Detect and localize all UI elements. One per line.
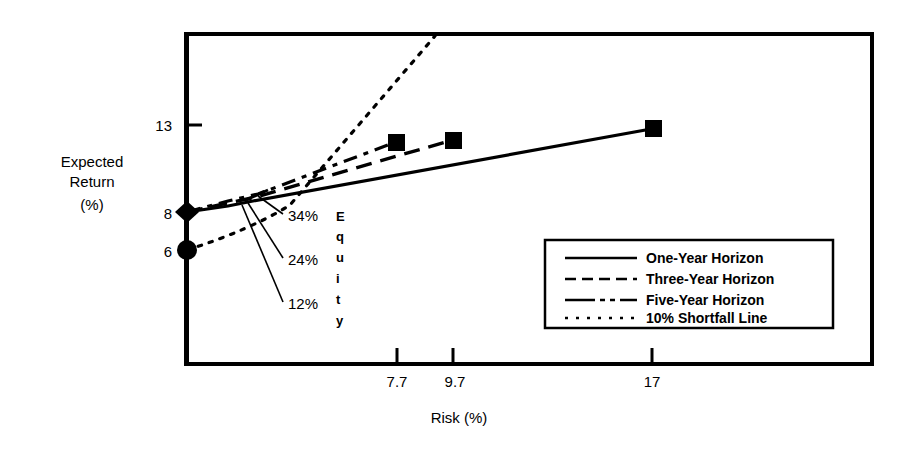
y-tick-label-8: 8 <box>164 205 172 222</box>
y-axis-title-line-2: Return <box>69 173 114 190</box>
equity-letter-y: y <box>336 313 344 328</box>
series-line-one-year <box>187 129 651 212</box>
chart-svg: 13 8 6 7.7 9.7 17 Risk (%) Expected Retu… <box>0 0 922 454</box>
x-tick-label-7-7: 7.7 <box>387 373 408 390</box>
chart-figure: 13 8 6 7.7 9.7 17 Risk (%) Expected Retu… <box>0 0 922 454</box>
legend-label-shortfall: 10% Shortfall Line <box>646 310 768 326</box>
y-tick-label-13: 13 <box>155 117 172 134</box>
y-axis-title-line-3: (%) <box>80 196 103 213</box>
annotation-label-34: 34% <box>288 207 318 224</box>
legend-label-five-year: Five-Year Horizon <box>646 292 764 308</box>
legend-label-three-year: Three-Year Horizon <box>646 271 774 287</box>
legend: One-Year Horizon Three-Year Horizon Five… <box>545 240 833 328</box>
annotation-label-12: 12% <box>288 295 318 312</box>
origin-diamond-marker <box>175 201 199 223</box>
annotation-label-24: 24% <box>288 251 318 268</box>
y-tick-label-6: 6 <box>164 243 172 260</box>
legend-label-one-year: One-Year Horizon <box>646 250 763 266</box>
x-tick-label-9-7: 9.7 <box>445 373 466 390</box>
equity-letter-q: q <box>336 229 344 244</box>
endpoint-marker-five-year <box>388 134 405 151</box>
equity-letter-e: E <box>336 209 345 224</box>
equity-letter-i: i <box>336 271 340 286</box>
series-line-five-year <box>187 143 393 212</box>
x-tick-label-17: 17 <box>644 373 661 390</box>
y-axis-title-line-1: Expected <box>61 153 124 170</box>
origin-circle-marker <box>177 240 197 260</box>
endpoint-marker-one-year <box>645 120 662 137</box>
endpoint-marker-three-year <box>445 132 462 149</box>
equity-letter-t: t <box>336 292 341 307</box>
equity-letter-u: u <box>336 250 344 265</box>
x-axis-title: Risk (%) <box>431 409 488 426</box>
